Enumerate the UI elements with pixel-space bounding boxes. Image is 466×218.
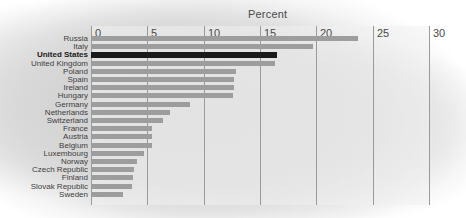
x-tick-label-25: 25 — [377, 27, 389, 39]
bar-belgium — [91, 143, 152, 148]
bar-netherlands — [91, 110, 170, 115]
bar-norway — [91, 159, 137, 164]
x-tick-label-30: 30 — [433, 27, 445, 39]
bar-poland — [91, 69, 236, 74]
category-label-sweden: Sweden — [59, 191, 88, 199]
bar-switzerland — [91, 118, 163, 123]
bar-italy — [91, 44, 313, 49]
bar-france — [91, 126, 152, 131]
gridline-25 — [373, 26, 374, 205]
bar-sweden — [91, 192, 123, 197]
bar-united-kingdom — [91, 61, 275, 66]
gridline-30 — [429, 26, 430, 205]
bar-czech-republic — [91, 167, 134, 172]
bar-hungary — [91, 93, 233, 98]
bar-slovak-republic — [91, 184, 132, 189]
gridline-20 — [316, 26, 317, 205]
bar-chart: Percent 051015202530 RussiaItalyUnited S… — [0, 0, 466, 218]
bar-austria — [91, 134, 152, 139]
bar-ireland — [91, 85, 234, 90]
bar-luxembourg — [91, 151, 144, 156]
bar-spain — [91, 77, 234, 82]
bar-finland — [91, 175, 133, 180]
bar-germany — [91, 102, 190, 107]
chart-title: Percent — [248, 8, 287, 20]
bar-united-states — [91, 52, 277, 58]
bar-russia — [91, 36, 358, 41]
